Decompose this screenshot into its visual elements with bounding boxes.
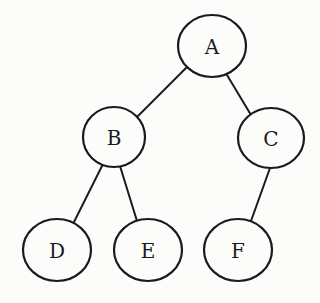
node-d: D	[23, 219, 91, 281]
node-label: E	[141, 239, 156, 263]
binary-tree-diagram: ABCDEF	[0, 0, 320, 303]
edge-b-d	[74, 166, 102, 222]
node-b: B	[83, 107, 145, 167]
nodes-group: ABCDEF	[23, 15, 304, 281]
node-label: C	[263, 127, 278, 151]
node-e: E	[114, 219, 182, 281]
node-a: A	[178, 15, 246, 77]
node-label: A	[204, 35, 220, 59]
tree-svg: ABCDEF	[0, 0, 320, 303]
edge-c-f	[251, 168, 270, 221]
edge-a-c	[227, 75, 251, 115]
node-label: B	[107, 126, 122, 150]
node-label: D	[49, 239, 65, 263]
edge-b-e	[120, 166, 137, 221]
node-c: C	[238, 108, 304, 168]
node-f: F	[204, 219, 272, 281]
edge-a-b	[137, 67, 187, 117]
node-label: F	[231, 239, 245, 263]
